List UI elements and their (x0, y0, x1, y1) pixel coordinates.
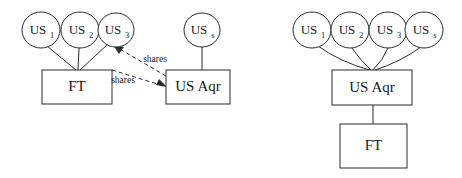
node-us1-label: US (30, 22, 47, 37)
node-us2[interactable]: US 2 (61, 12, 99, 48)
node-us3-subscript: 3 (125, 30, 129, 40)
node-r-us1-label: US (301, 22, 318, 37)
edge-r-us1-to-usaqr (318, 46, 370, 70)
node-r-us3[interactable]: US 3 (369, 12, 407, 48)
figure-canvas: US 1 US 2 US 3 US s FT (0, 0, 462, 178)
node-r-uss-label: US (413, 22, 430, 37)
node-us3-label: US (105, 22, 122, 37)
node-uss-label: US (191, 22, 208, 37)
node-us1[interactable]: US 1 (22, 12, 60, 48)
node-r-ft-label: FT (365, 137, 383, 153)
edge-label-shares-upper: shares (143, 54, 167, 64)
node-r-us3-label: US (377, 22, 394, 37)
node-r-us2-label: US (339, 22, 356, 37)
node-r-us2[interactable]: US 2 (331, 12, 369, 48)
node-ft-label: FT (68, 78, 86, 94)
node-r-uss-subscript: s (433, 30, 436, 40)
diagram-svg: US 1 US 2 US 3 US s FT (0, 0, 462, 178)
right-diagram: US 1 US 2 US 3 US s US Aqr (293, 12, 443, 168)
node-r-usaqr-label: US Aqr (349, 79, 394, 95)
edge-label-shares-lower: shares (111, 75, 135, 85)
node-uss[interactable]: US s (184, 13, 220, 47)
node-us2-subscript: 2 (89, 30, 93, 40)
node-r-ft-box[interactable]: FT (340, 124, 407, 168)
node-uss-subscript: s (211, 30, 214, 40)
edge-us1-to-ft (47, 46, 76, 70)
node-r-usaqr-box[interactable]: US Aqr (332, 70, 412, 105)
node-ft-box[interactable]: FT (42, 70, 112, 104)
node-usaqr-box[interactable]: US Aqr (166, 70, 230, 104)
node-us2-label: US (69, 22, 86, 37)
node-r-us1[interactable]: US 1 (293, 12, 331, 48)
node-r-us3-subscript: 3 (397, 30, 401, 40)
node-r-uss[interactable]: US s (405, 12, 443, 48)
node-us1-subscript: 1 (50, 30, 54, 40)
node-r-us2-subscript: 2 (359, 30, 363, 40)
node-r-us1-subscript: 1 (321, 30, 325, 40)
node-usaqr-label: US Aqr (175, 78, 220, 94)
edge-us2-to-ft (78, 48, 79, 70)
node-us3[interactable]: US 3 (98, 13, 134, 47)
edge-r-us2-to-usaqr (352, 48, 371, 70)
arrowhead-to-usaqr (156, 79, 167, 87)
left-diagram: US 1 US 2 US 3 US s FT (22, 12, 230, 104)
